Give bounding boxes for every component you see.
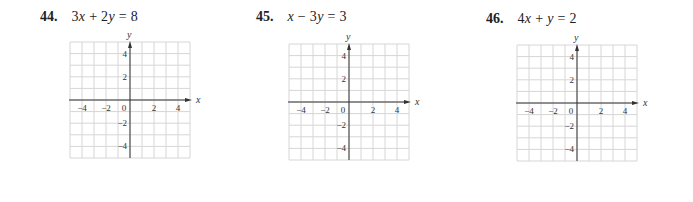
y-axis-label: y [573, 32, 579, 43]
y-tick-label: −4 [336, 143, 346, 153]
x-tick-label: 0 [569, 106, 574, 116]
problem-number: 45. [256, 9, 274, 24]
y-tick-label: 2 [123, 72, 128, 82]
coordinate-grid[interactable]: xy−4−202442−2−4 [70, 42, 190, 158]
x-tick-label: 2 [599, 106, 604, 116]
y-tick-label: 4 [342, 51, 347, 61]
x-tick-label: −2 [548, 106, 558, 116]
equation: x − 3y = 3 [288, 9, 347, 24]
y-tick-label: −2 [336, 120, 346, 130]
problem-heading: 46.4x + y = 2 [486, 12, 577, 26]
x-tick-label: −2 [101, 103, 111, 113]
x-axis-arrow-icon [185, 98, 192, 102]
x-axis-label: x [195, 94, 201, 105]
x-axis-label: x [414, 96, 420, 107]
x-axis-arrow-icon [404, 100, 411, 104]
equation: 4x + y = 2 [518, 11, 577, 26]
x-axis-arrow-icon [632, 101, 639, 105]
problem-number: 46. [486, 11, 504, 26]
y-tick-label: 4 [123, 49, 128, 59]
x-tick-label: −4 [296, 105, 306, 115]
x-tick-label: 0 [122, 103, 127, 113]
problem-heading: 45.x − 3y = 3 [256, 10, 347, 24]
y-axis-label: y [345, 31, 351, 42]
problem-heading: 44.3x + 2y = 8 [40, 10, 138, 24]
problem-number: 44. [40, 9, 58, 24]
y-tick-label: 4 [570, 52, 575, 62]
y-axis-label: y [126, 29, 132, 40]
x-tick-label: 2 [152, 103, 157, 113]
y-tick-label: −2 [564, 121, 574, 131]
y-tick-label: −2 [117, 118, 127, 128]
coordinate-grid[interactable]: xy−4−202442−2−4 [289, 44, 409, 160]
coordinate-grid[interactable]: xy−4−202442−2−4 [517, 45, 637, 161]
equation: 3x + 2y = 8 [72, 9, 139, 24]
x-axis-label: x [642, 97, 648, 108]
x-tick-label: 0 [341, 105, 346, 115]
y-tick-label: −4 [117, 141, 127, 151]
y-tick-label: 2 [570, 75, 575, 85]
y-tick-label: −4 [564, 144, 574, 154]
x-tick-label: −4 [524, 106, 534, 116]
x-tick-label: 2 [371, 105, 376, 115]
x-tick-label: 4 [623, 106, 628, 116]
y-tick-label: 2 [342, 74, 347, 84]
x-tick-label: −2 [320, 105, 330, 115]
x-tick-label: −4 [77, 103, 87, 113]
x-tick-label: 4 [176, 103, 181, 113]
x-tick-label: 4 [395, 105, 400, 115]
